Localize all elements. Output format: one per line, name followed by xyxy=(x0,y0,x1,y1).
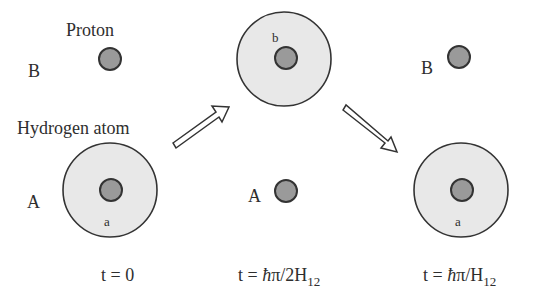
panel-t0: Proton B Hydrogen atom a A t = 0 xyxy=(17,20,157,285)
panel-t-full: B a t = ħπ/H12 xyxy=(414,46,508,289)
site-a-label: A xyxy=(248,186,261,206)
proton-b-circle xyxy=(448,46,470,68)
arrow-up-right-icon xyxy=(173,106,229,148)
time-label-t0: t = 0 xyxy=(101,265,134,285)
hydrogen-atom-label: Hydrogen atom xyxy=(17,118,129,138)
orbital-b-label: b xyxy=(272,30,279,45)
orbital-a-label: a xyxy=(455,214,461,229)
proton-a-circle xyxy=(275,180,297,202)
proton-b-circle xyxy=(275,47,297,69)
arrow-down-right-icon xyxy=(343,105,397,152)
proton-b-circle xyxy=(99,48,121,70)
proton-a-circle xyxy=(451,179,473,201)
site-a-label: A xyxy=(27,192,40,212)
orbital-a-label: a xyxy=(104,214,110,229)
panel-t-half: b A t = ħπ/2H12 xyxy=(237,12,331,289)
proton-label: Proton xyxy=(66,20,114,40)
site-b-label: B xyxy=(421,58,433,78)
hydrogen-transfer-diagram: Proton B Hydrogen atom a A t = 0 b A t =… xyxy=(0,0,539,306)
time-label-t-half: t = ħπ/2H12 xyxy=(238,265,320,289)
site-b-label: B xyxy=(28,61,40,81)
proton-a-circle xyxy=(100,179,122,201)
time-label-t-full: t = ħπ/H12 xyxy=(423,265,496,289)
